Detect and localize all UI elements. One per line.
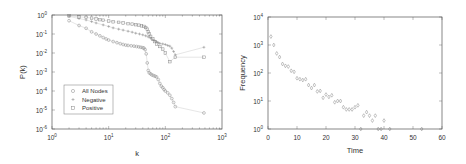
y-tick-label: 10-2	[36, 49, 48, 57]
x-tick-label: 30	[351, 134, 359, 141]
y-tick-label: 10-5	[36, 106, 48, 114]
diamond-marker-icon	[302, 78, 304, 82]
y-tick-label: 103	[253, 41, 263, 49]
time-frequency-chart: 100 101 102 103 104 0 10 20 30 40 50 60 …	[233, 0, 466, 164]
diamond-marker-icon	[371, 119, 373, 123]
x-tick-label: 103	[217, 133, 227, 141]
x-tick-label: 10	[293, 134, 301, 141]
diamond-marker-icon	[316, 90, 318, 94]
diamond-marker-icon	[368, 114, 370, 118]
x-tick-label: 101	[104, 133, 114, 141]
legend: All Nodes Negative Positive	[64, 85, 113, 114]
diamond-marker-icon	[365, 110, 367, 114]
diamond-marker-icon	[270, 35, 272, 39]
y-axis-label: P(k)	[18, 65, 27, 79]
diamond-marker-icon	[325, 93, 327, 97]
time-frequency-plot: 100 101 102 103 104 0 10 20 30 40 50 60 …	[233, 0, 466, 164]
plot-frame	[268, 17, 442, 129]
positive-series	[68, 15, 205, 63]
y-tick-label: 104	[253, 13, 263, 21]
diamond-marker-icon	[328, 95, 330, 99]
degree-distribution-plot: 100 10-1 10-2 10-3 10-4 10-5 10-6 100 10…	[0, 0, 233, 164]
y-tick-label: 100	[253, 125, 263, 133]
frequency-series	[270, 35, 423, 131]
y-tick-label: 100	[37, 11, 47, 19]
diamond-marker-icon	[319, 89, 321, 93]
diamond-marker-icon	[345, 108, 347, 112]
x-tick-labels: 100 101 102 103	[47, 133, 227, 141]
x-tick-label: 60	[438, 134, 446, 141]
diamond-marker-icon	[281, 62, 283, 66]
y-axis-label: Frequency	[238, 55, 247, 91]
diamond-marker-icon	[348, 108, 350, 112]
diamond-marker-icon	[339, 99, 341, 103]
diamond-marker-icon	[383, 119, 385, 123]
x-tick-label: 100	[47, 133, 57, 141]
diamond-marker-icon	[307, 83, 309, 87]
diamond-marker-icon	[287, 65, 289, 69]
x-tick-labels: 0 10 20 30 40 50 60	[266, 134, 446, 141]
axis-ticks	[268, 17, 442, 129]
legend-label-positive: Positive	[82, 105, 104, 111]
diamond-marker-icon	[357, 103, 359, 107]
x-tick-label: 102	[160, 133, 170, 141]
plot-series	[270, 35, 423, 131]
x-tick-label: 0	[266, 134, 270, 141]
diamond-marker-icon	[351, 108, 353, 112]
x-axis-label: k	[135, 149, 139, 158]
diamond-marker-icon	[363, 114, 365, 118]
diamond-marker-icon	[322, 96, 324, 100]
y-tick-label: 10-1	[36, 30, 48, 38]
diamond-marker-icon	[299, 77, 301, 81]
x-tick-label: 50	[409, 134, 417, 141]
diamond-marker-icon	[342, 105, 344, 109]
diamond-marker-icon	[374, 114, 376, 118]
diamond-marker-icon	[284, 64, 286, 68]
diamond-marker-icon	[334, 100, 336, 104]
y-tick-labels: 100 10-1 10-2 10-3 10-4 10-5 10-6	[36, 11, 48, 133]
degree-distribution-chart: 100 10-1 10-2 10-3 10-4 10-5 10-6 100 10…	[0, 0, 233, 164]
negative-series	[68, 15, 206, 56]
diamond-marker-icon	[354, 105, 356, 109]
x-tick-label: 40	[380, 134, 388, 141]
y-tick-label: 10-4	[36, 87, 48, 95]
legend-label-all-nodes: All Nodes	[82, 88, 108, 94]
diamond-marker-icon	[313, 83, 315, 87]
diamond-marker-icon	[290, 69, 292, 73]
diamond-marker-icon	[278, 55, 280, 59]
legend-label-negative: Negative	[82, 97, 106, 103]
diamond-marker-icon	[310, 86, 312, 90]
x-axis-label: Time	[347, 146, 363, 155]
y-tick-label: 101	[253, 97, 263, 105]
diamond-marker-icon	[296, 76, 298, 80]
diamond-marker-icon	[293, 70, 295, 74]
diamond-marker-icon	[273, 43, 275, 47]
diamond-marker-icon	[276, 52, 278, 56]
y-tick-label: 102	[253, 69, 263, 77]
diamond-marker-icon	[336, 99, 338, 103]
y-tick-label: 10-3	[36, 68, 48, 76]
x-tick-label: 20	[322, 134, 330, 141]
y-tick-labels: 100 101 102 103 104	[253, 13, 263, 133]
diamond-marker-icon	[305, 77, 307, 81]
diamond-marker-icon	[331, 93, 333, 97]
y-tick-label: 10-6	[36, 125, 48, 133]
